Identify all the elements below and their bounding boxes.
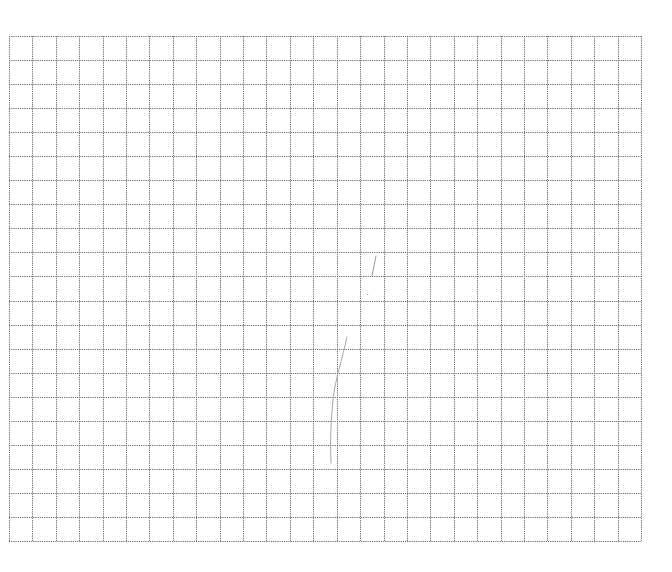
pencil-dot (367, 294, 368, 295)
grid-paper (0, 0, 672, 572)
paper-background (0, 0, 672, 572)
